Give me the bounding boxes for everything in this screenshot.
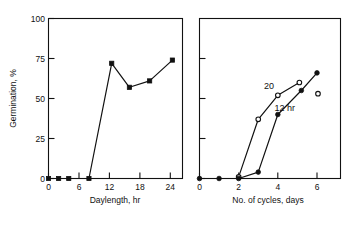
left-data-line [49, 60, 173, 178]
data-point [127, 85, 131, 89]
left-x-axis-title: Daylength, hr [90, 195, 141, 205]
right-series-12hr [197, 71, 319, 181]
right-series-20 [236, 80, 301, 179]
left-xtick-6: 6 [77, 182, 82, 192]
panel-right: 0 2 4 6 No. of cycles, days 20 12 hr [197, 19, 340, 206]
right-xtick-6: 6 [315, 182, 320, 192]
data-point [148, 79, 152, 83]
data-point [46, 176, 50, 180]
left-y-ticklabels: 0 25 50 75 100 [31, 14, 45, 184]
data-point [276, 93, 281, 98]
left-plot-frame [49, 19, 183, 179]
right-xtick-4: 4 [275, 182, 280, 192]
data-point [87, 176, 91, 180]
right-data-points-12hr [197, 71, 319, 181]
left-xtick-12: 12 [105, 182, 115, 192]
left-series-daylength-response [46, 58, 174, 181]
data-point [236, 176, 241, 181]
panel-left: 0 25 50 75 100 Germination, % 0 6 12 [8, 14, 183, 206]
data-point [57, 176, 61, 180]
left-y-axis-title: Germination, % [8, 69, 18, 128]
data-point [170, 58, 174, 62]
data-point [197, 176, 202, 181]
series-annotation-20: 20 [264, 81, 274, 91]
data-point [217, 176, 222, 181]
left-ytick-25: 25 [36, 134, 46, 144]
data-point [299, 88, 304, 93]
two-panel-line-chart: 0 25 50 75 100 Germination, % 0 6 12 [0, 0, 361, 227]
left-ytick-50: 50 [36, 94, 46, 104]
left-ytick-100: 100 [31, 14, 45, 24]
left-ytick-75: 75 [36, 54, 46, 64]
data-point [256, 170, 261, 175]
left-xtick-18: 18 [135, 182, 145, 192]
left-y-tickmarks [49, 19, 55, 179]
right-y-tickmarks [200, 59, 206, 179]
data-point [256, 117, 261, 122]
right-xtick-2: 2 [236, 182, 241, 192]
data-point [315, 71, 320, 76]
data-point [297, 80, 302, 85]
right-plot-frame [200, 19, 341, 179]
right-data-points-extra [316, 91, 321, 96]
right-data-line-20 [239, 83, 300, 177]
right-xtick-0: 0 [197, 182, 202, 192]
data-point [110, 61, 114, 65]
left-xtick-0: 0 [46, 182, 51, 192]
right-data-points-20 [236, 80, 301, 179]
figure-container: 0 25 50 75 100 Germination, % 0 6 12 [0, 0, 361, 227]
left-ytick-0: 0 [40, 174, 45, 184]
right-x-ticklabels: 0 2 4 6 [197, 182, 320, 192]
data-point [316, 91, 321, 96]
series-annotation-12hr: 12 hr [274, 103, 295, 113]
left-xtick-24: 24 [166, 182, 176, 192]
left-x-ticklabels: 0 6 12 18 24 [46, 182, 175, 192]
data-point [67, 176, 71, 180]
right-x-axis-title: No. of cycles, days [232, 195, 303, 205]
